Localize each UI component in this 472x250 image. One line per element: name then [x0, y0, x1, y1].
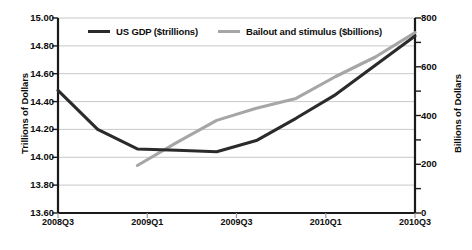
y-tick-label-left-1: 14.80	[10, 41, 54, 51]
legend-item-bailout[interactable]: Bailout and stimulus ($billions)	[218, 26, 382, 37]
legend-swatch-us-gdp-line-icon	[88, 30, 110, 33]
series-line-us-gdp	[58, 36, 415, 152]
y-tick-label-left-2: 14.60	[10, 69, 54, 79]
y-axis-left-title: Trillions of Dollars	[19, 44, 30, 184]
chart-legend: US GDP ($trillions) Bailout and stimulus…	[84, 24, 386, 39]
x-tick-label-2010q1: 2010Q1	[286, 218, 366, 227]
x-tick-label-2008q3: 2008Q3	[18, 218, 98, 227]
y-tick-label-left-0: 15.00	[10, 13, 54, 23]
chart-container: Trillions of Dollars Billions of Dollars…	[0, 0, 472, 250]
gridlines	[58, 18, 415, 185]
y-tick-label-left-4: 14.20	[10, 124, 54, 134]
y-tick-label-right-1: 600	[421, 62, 465, 72]
x-tick-label-2009q3: 2009Q3	[197, 218, 277, 227]
y-tick-label-left-5: 14.00	[10, 152, 54, 162]
y-tick-label-right-2: 400	[421, 111, 465, 121]
figure-caption	[0, 240, 472, 250]
y-tick-label-right-0: 800	[421, 13, 465, 23]
x-tick-label-2010q3: 2010Q3	[375, 218, 455, 227]
series-line-bailout-and-stimulus	[137, 33, 415, 166]
legend-label-bailout: Bailout and stimulus ($billions)	[246, 26, 382, 37]
y-tick-label-right-3: 200	[421, 159, 465, 169]
legend-item-us-gdp[interactable]: US GDP ($trillions)	[88, 26, 198, 37]
x-tick-label-2009q1: 2009Q1	[107, 218, 187, 227]
y-tick-label-left-6: 13.80	[10, 180, 54, 190]
legend-label-us-gdp: US GDP ($trillions)	[116, 26, 198, 37]
legend-swatch-bailout-line-icon	[218, 30, 240, 33]
y-tick-label-left-3: 14.40	[10, 97, 54, 107]
